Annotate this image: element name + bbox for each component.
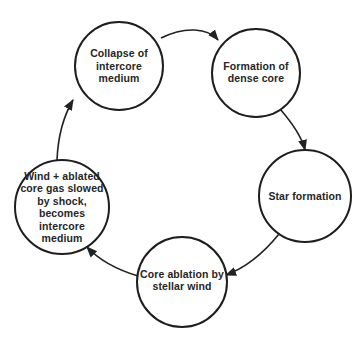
arrow-collapse-to-formation (161, 30, 218, 40)
arrow-star-to-ablation (226, 234, 279, 275)
arrow-wind-to-collapse (57, 100, 73, 160)
node-star-label: Star formation (262, 186, 348, 206)
arrow-formation-to-star (280, 109, 305, 150)
node-ablation-label: Core ablation by stellar wind (140, 262, 224, 298)
node-wind-label: Wind + ablated core gas slowed by shock,… (20, 164, 104, 250)
node-formation-label: Formation of dense core (216, 52, 296, 92)
node-collapse-label: Collapse of intercore medium (82, 40, 156, 92)
arrow-ablation-to-wind (87, 247, 138, 276)
